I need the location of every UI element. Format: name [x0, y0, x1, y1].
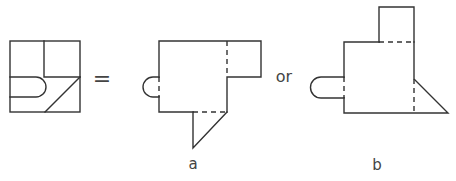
- source-top-flap-lines: [44, 41, 80, 77]
- source-figure: [10, 41, 80, 112]
- net-b: [311, 7, 449, 113]
- equals-sign: =: [93, 66, 111, 91]
- label-a: a: [188, 155, 197, 173]
- label-b: b: [372, 156, 382, 174]
- or-label: or: [276, 67, 293, 86]
- net-a-triangle: [193, 112, 227, 148]
- net-a-rounded-tab: [143, 77, 159, 97]
- net-b-top-flap: [379, 7, 414, 42]
- net-b-rounded-tab: [311, 77, 345, 98]
- net-a-outline: [159, 41, 261, 112]
- net-b-outline: [344, 42, 448, 113]
- source-diagonal-line: [45, 77, 80, 112]
- source-rounded-tab: [10, 77, 46, 97]
- puzzle-diagram: = or a b: [0, 0, 456, 181]
- net-a: [143, 41, 261, 148]
